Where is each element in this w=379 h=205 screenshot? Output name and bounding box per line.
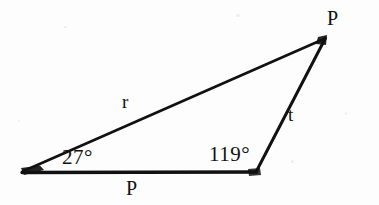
scan-speck — [18, 120, 20, 122]
scan-speck — [236, 14, 240, 17]
side-p-base-line — [22, 172, 257, 173]
scan-speck — [291, 160, 294, 163]
apex-vertex-label: P — [327, 8, 338, 28]
side-p-label: P — [126, 178, 137, 198]
angle-right-label: 119° — [209, 144, 250, 165]
side-t-label: t — [288, 105, 293, 124]
side-r-label: r — [122, 92, 128, 111]
scan-speck — [64, 26, 67, 28]
apex-vertex-point — [316, 35, 327, 45]
bottom-right-vertex-point — [248, 168, 261, 176]
triangle-figure: P r t P 27° 119° — [0, 0, 379, 205]
angle-left-label: 27° — [62, 147, 93, 168]
scan-speck — [345, 112, 347, 115]
triangle-drawing — [0, 0, 379, 205]
